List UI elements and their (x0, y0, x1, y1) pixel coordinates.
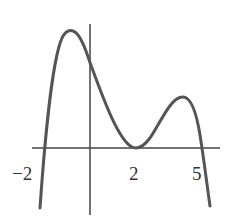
x-tick-label-2: 2 (129, 163, 139, 184)
function-curve (40, 31, 210, 209)
function-graph: −2 2 5 (0, 0, 228, 219)
x-tick-label-5: 5 (192, 163, 202, 184)
x-tick-label-neg2: −2 (12, 163, 32, 184)
